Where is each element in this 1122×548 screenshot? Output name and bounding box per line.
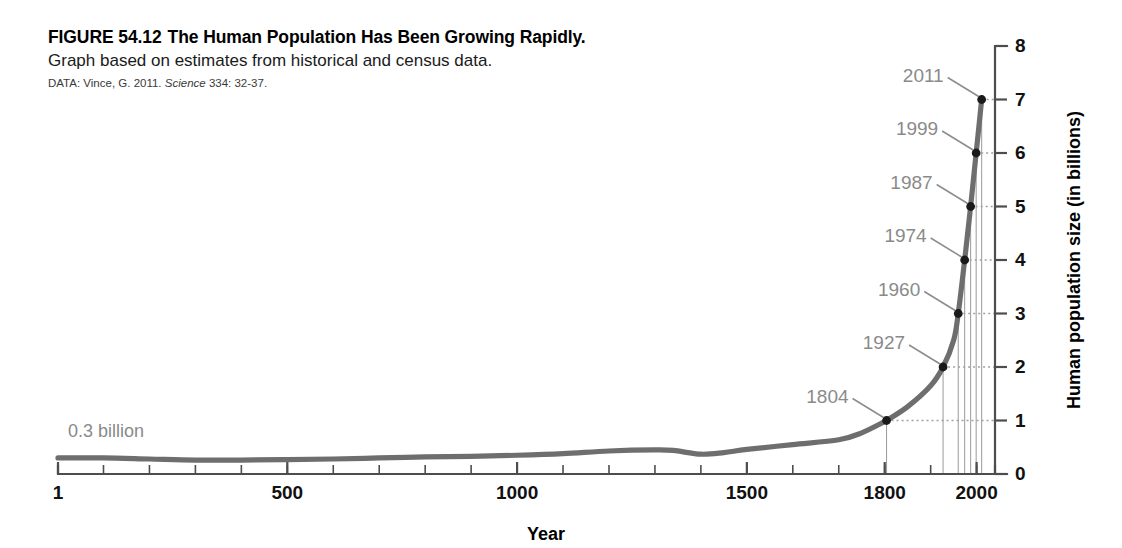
- callout-label-1987: 1987: [890, 172, 932, 193]
- x-tick-label: 1: [53, 482, 64, 503]
- x-tick-label: 1000: [496, 482, 538, 503]
- y-axis-title: Human population size (in billions): [1064, 111, 1084, 409]
- y-tick-label: 0: [1015, 463, 1026, 484]
- leader-line-1960: [924, 292, 955, 311]
- y-tick-label: 5: [1015, 196, 1026, 217]
- callout-label-1999: 1999: [896, 118, 938, 139]
- callout-label-1927: 1927: [863, 332, 905, 353]
- x-axis-line: [58, 466, 995, 474]
- y-tick-label: 7: [1015, 89, 1026, 110]
- data-point-1999: [972, 149, 981, 158]
- callout-year-labels: 1804192719601974198719992011: [806, 65, 943, 407]
- y-axis-major-ticks: [995, 46, 1007, 474]
- y-axis-tick-labels: 012345678: [1015, 35, 1026, 484]
- callout-label-1804: 1804: [806, 386, 849, 407]
- data-point-2011: [977, 95, 986, 104]
- x-tick-label: 500: [271, 482, 303, 503]
- leader-line-1927: [909, 345, 940, 364]
- callout-label-1960: 1960: [878, 279, 920, 300]
- x-axis-tick-labels: 15001000150018002000: [53, 482, 998, 503]
- x-axis-title: Year: [527, 524, 565, 544]
- population-line-chart: 1804192719601974198719992011 15001000150…: [0, 0, 1122, 548]
- data-point-1927: [939, 363, 948, 372]
- y-tick-label: 4: [1015, 249, 1026, 270]
- x-tick-label: 1500: [726, 482, 768, 503]
- annotation-initial-population: 0.3 billion: [68, 421, 144, 441]
- data-point-1960: [954, 309, 963, 318]
- leader-line-1987: [937, 185, 968, 204]
- x-tick-label: 1800: [864, 482, 906, 503]
- figure-container: FIGURE 54.12The Human Population Has Bee…: [0, 0, 1122, 548]
- y-tick-label: 8: [1015, 35, 1026, 56]
- x-tick-label: 2000: [955, 482, 997, 503]
- data-point-1974: [960, 256, 969, 265]
- y-tick-label: 2: [1015, 356, 1026, 377]
- x-axis-minor-ticks: [103, 465, 976, 474]
- leader-line-2011: [948, 78, 979, 97]
- leader-line-1999: [942, 131, 973, 150]
- y-tick-label: 6: [1015, 142, 1026, 163]
- y-tick-label: 3: [1015, 303, 1026, 324]
- leader-line-1974: [931, 238, 962, 257]
- data-point-1987: [966, 202, 975, 211]
- callout-label-2011: 2011: [903, 65, 944, 86]
- callout-label-1974: 1974: [884, 225, 927, 246]
- data-point-1804: [882, 416, 891, 425]
- leader-line-1804: [853, 399, 884, 418]
- y-tick-label: 1: [1015, 410, 1026, 431]
